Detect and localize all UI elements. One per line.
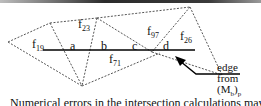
face-label-f23: f23 <box>78 18 90 33</box>
point-label-b: b <box>101 40 107 52</box>
point-label-a: a <box>70 40 75 52</box>
face-label-f97: f97 <box>147 25 159 40</box>
face-label-f19: f19 <box>32 38 44 53</box>
edge-label: edge from (Mb)p <box>217 62 241 100</box>
point-label-d: d <box>163 40 169 52</box>
face-label-f71: f71 <box>109 53 121 68</box>
caption-text: Numerical errors in the intersection cal… <box>10 96 261 106</box>
face-label-f26: f26 <box>180 30 192 45</box>
point-label-c: c <box>132 40 137 52</box>
